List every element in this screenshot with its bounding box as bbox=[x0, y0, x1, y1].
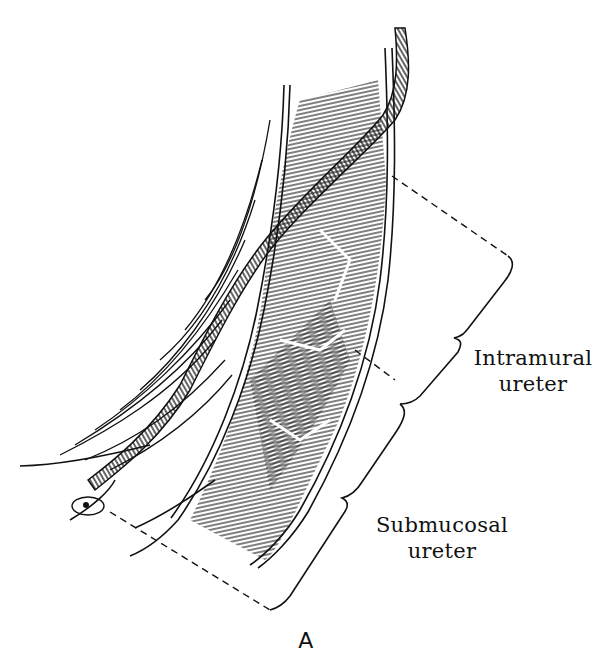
submucosal-label-line1: Submucosal bbox=[352, 512, 532, 538]
intramural-ureter-label: Intramural ureter bbox=[448, 345, 614, 397]
ureter-anatomy-illustration bbox=[0, 0, 614, 664]
intramural-label-line2: ureter bbox=[448, 371, 614, 397]
panel-label: A bbox=[286, 628, 326, 654]
submucosal-ureter-label: Submucosal ureter bbox=[352, 512, 532, 564]
submucosal-label-line2: ureter bbox=[352, 538, 532, 564]
intramural-label-line1: Intramural bbox=[448, 345, 614, 371]
